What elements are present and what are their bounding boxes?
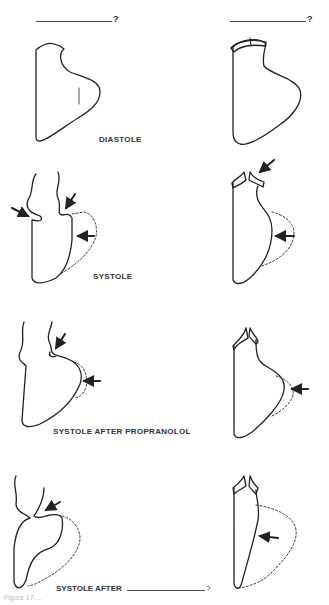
systole-after-right-ventricle-shape [233, 476, 296, 588]
label-diastole: DIASTOLE [99, 135, 142, 144]
label-systole-after-propranolol: SYSTOLE AFTER PROPRANOLOL [53, 427, 191, 436]
systole-left-ventricle-shape [27, 172, 96, 283]
propranolol-left-ventricle-shape [19, 322, 87, 427]
question-mark: ? [206, 584, 210, 593]
fill-in-blank-line [127, 589, 205, 591]
ventricle-diagram [0, 0, 329, 605]
figure-caption: Figure 17-... [4, 594, 42, 601]
systole-after-text: SYSTOLE AFTER [56, 584, 122, 593]
label-systole-after-blank: SYSTOLE AFTER ? [56, 584, 210, 593]
systole-right-ventricle-shape [232, 172, 294, 283]
label-systole: SYSTOLE [93, 272, 132, 281]
diastole-right-ventricle-shape [231, 38, 301, 144]
diastole-left-ventricle-shape [36, 43, 100, 141]
propranolol-right-ventricle-shape [233, 328, 293, 438]
systole-after-left-ventricle-shape [14, 476, 80, 588]
